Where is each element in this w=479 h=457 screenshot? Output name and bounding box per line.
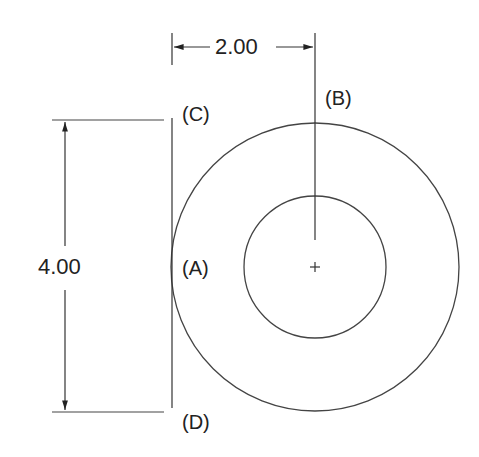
dimension-label-horizontal: 2.00	[213, 36, 260, 58]
point-label-b: (B)	[325, 88, 352, 108]
point-label-d: (D)	[182, 412, 210, 432]
center-mark-icon	[310, 262, 320, 272]
point-label-c: (C)	[182, 104, 210, 124]
dimension-label-vertical: 4.00	[36, 256, 83, 278]
point-label-a: (A)	[182, 258, 209, 278]
drawing-canvas	[0, 0, 479, 457]
